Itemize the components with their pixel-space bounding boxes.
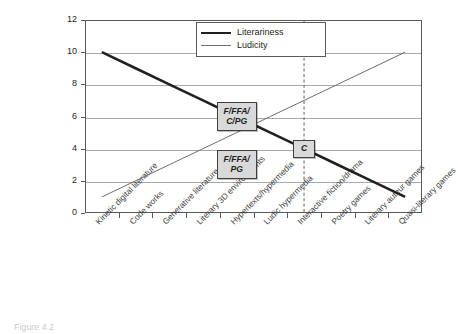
- figure-caption: Figure 4.2: [14, 323, 54, 332]
- y-tick-label-2: 2: [55, 176, 77, 185]
- y-tick-label-6: 6: [55, 112, 77, 121]
- x-tick-mark-7: [321, 213, 322, 218]
- thin-line-swatch-icon: [201, 45, 231, 46]
- y-tick-mark-6: [81, 117, 85, 118]
- thick-line-swatch-icon: [201, 32, 231, 34]
- y-tick-label-10: 10: [55, 47, 77, 56]
- x-tick-mark-9: [388, 213, 389, 218]
- legend-label-ludicity: Ludicity: [237, 41, 268, 50]
- legend-item-ludicity: Ludicity: [201, 39, 321, 52]
- y-tick-label-0: 0: [55, 208, 77, 217]
- x-tick-mark-8: [355, 213, 356, 218]
- y-tick-mark-10: [81, 52, 85, 53]
- y-tick-mark-8: [81, 84, 85, 85]
- gridline-8: [86, 85, 421, 86]
- legend-item-literariness: Literariness: [201, 26, 321, 39]
- annotation-box-0: F/FFA/ C/PG: [217, 102, 257, 131]
- x-tick-mark-5: [254, 213, 255, 218]
- annotation-box-1: F/FFA/ PG: [217, 150, 257, 179]
- y-tick-label-4: 4: [55, 144, 77, 153]
- y-tick-label-8: 8: [55, 79, 77, 88]
- y-tick-mark-2: [81, 181, 85, 182]
- x-tick-mark-4: [220, 213, 221, 218]
- x-tick-mark-2: [152, 213, 153, 218]
- annotation-box-2: C: [293, 140, 315, 158]
- x-tick-mark-1: [119, 213, 120, 218]
- x-tick-mark-6: [287, 213, 288, 218]
- y-tick-mark-4: [81, 149, 85, 150]
- y-tick-label-12: 12: [55, 15, 77, 24]
- legend-label-literariness: Literariness: [237, 28, 284, 37]
- y-tick-mark-0: [81, 213, 85, 214]
- y-tick-mark-12: [81, 20, 85, 21]
- x-tick-mark-3: [186, 213, 187, 218]
- legend: Literariness Ludicity: [196, 22, 326, 57]
